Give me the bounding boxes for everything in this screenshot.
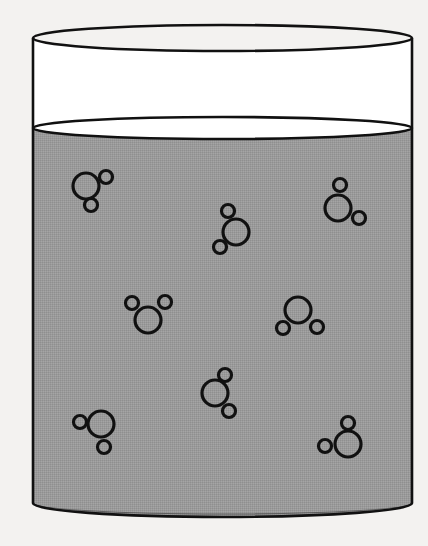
water-body: [33, 128, 412, 517]
beaker-diagram: [0, 0, 428, 546]
figure-container: [0, 0, 428, 546]
beaker-rim: [33, 25, 412, 51]
